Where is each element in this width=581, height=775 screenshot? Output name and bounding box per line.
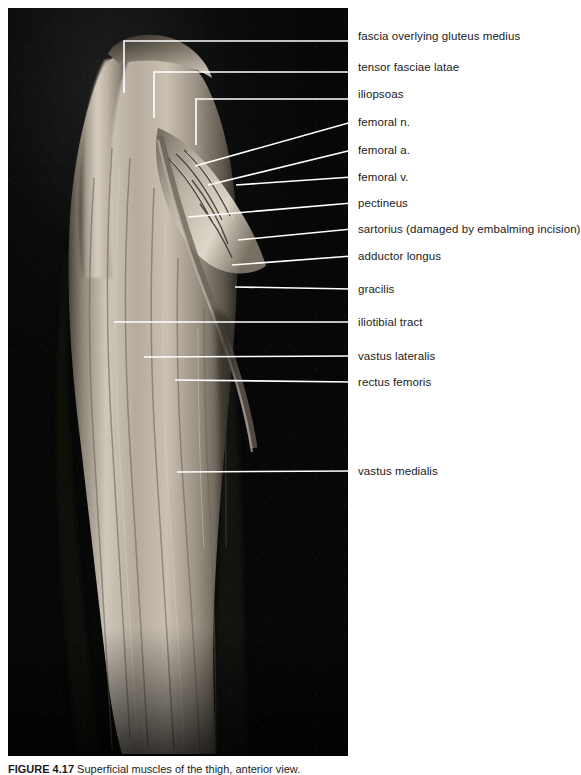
label-vastus-lateralis: vastus lateralis (358, 350, 435, 362)
label-femoral-a: femoral a. (358, 144, 410, 156)
label-vastus-medialis: vastus medialis (358, 465, 438, 477)
label-iliopsoas: iliopsoas (358, 88, 403, 100)
label-adductor-longus: adductor longus (358, 250, 441, 262)
film-grain (8, 8, 348, 756)
label-gracilis: gracilis (358, 283, 394, 295)
dissection-photograph (8, 8, 348, 756)
label-rectus-femoris: rectus femoris (358, 376, 431, 388)
label-tensor-fasciae-latae: tensor fasciae latae (358, 61, 459, 73)
label-iliotibial-tract: iliotibial tract (358, 316, 423, 328)
caption-number: FIGURE 4.17 (8, 763, 74, 775)
caption-text: Superficial muscles of the thigh, anteri… (77, 763, 300, 775)
label-fascia-gluteus-medius: fascia overlying gluteus medius (358, 30, 520, 42)
label-femoral-n: femoral n. (358, 116, 410, 128)
label-sartorius: sartorius (damaged by embalming incision… (358, 223, 581, 235)
label-pectineus: pectineus (358, 197, 408, 209)
figure-caption: FIGURE 4.17 Superficial muscles of the t… (8, 763, 478, 775)
label-femoral-v: femoral v. (358, 171, 408, 183)
